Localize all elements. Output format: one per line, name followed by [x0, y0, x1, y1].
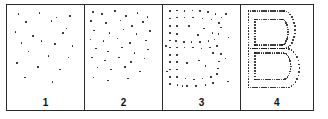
stimulus-dot: [254, 44, 256, 46]
stimulus-dot: [114, 10, 116, 12]
stimulus-dot: [212, 32, 214, 34]
stimulus-dot: [254, 58, 256, 60]
stimulus-dot: [191, 41, 193, 43]
stimulus-dot: [298, 71, 300, 73]
stimulus-dot: [290, 68, 292, 70]
stimulus-dot: [248, 10, 250, 12]
stimulus-dot: [220, 27, 222, 29]
stimulus-dot: [48, 55, 50, 57]
stimulus-dot: [294, 25, 296, 27]
stimulus-dot: [169, 32, 171, 34]
stimulus-dot: [254, 38, 256, 40]
stimulus-dot: [176, 69, 178, 71]
stimulus-dot: [95, 48, 97, 50]
stimulus-dot: [177, 84, 179, 86]
stimulus-dot: [289, 71, 291, 73]
stimulus-dot: [221, 17, 223, 19]
stimulus-dot: [208, 40, 210, 42]
stimulus-dot: [215, 13, 217, 15]
stimulus-dot: [176, 25, 178, 27]
stimulus-dot: [28, 51, 30, 53]
stimulus-dot: [130, 61, 132, 63]
stimulus-dot: [298, 75, 300, 77]
stimulus-dot: [265, 19, 267, 21]
stimulus-dot: [169, 54, 171, 56]
stimulus-dot: [137, 12, 139, 14]
stimulus-dot: [248, 16, 250, 18]
stimulus-dot: [274, 10, 276, 12]
stimulus-dot: [289, 60, 291, 62]
stimulus-dot: [287, 34, 289, 36]
stimulus-dot: [248, 73, 250, 75]
stimulus-dot: [293, 22, 295, 24]
stimulus-dot: [176, 61, 178, 63]
stimulus-dot: [90, 20, 92, 22]
stimulus-dot: [287, 29, 289, 31]
stimulus-dot: [254, 36, 256, 38]
stimulus-dot: [270, 44, 272, 46]
stimulus-dot: [286, 48, 288, 50]
stimulus-dot: [256, 79, 258, 81]
stimulus-dot: [256, 44, 258, 46]
stimulus-dot: [205, 84, 207, 86]
stimulus-dot: [218, 22, 220, 24]
stimulus-dot: [110, 69, 112, 71]
stimulus-dot: [192, 17, 194, 19]
stimulus-dot: [248, 70, 250, 72]
stimulus-dot: [227, 81, 229, 83]
stimulus-dot: [254, 27, 256, 29]
stimulus-dot: [117, 38, 119, 40]
stimulus-dot: [263, 44, 265, 46]
stimulus-dot: [39, 12, 41, 14]
stimulus-dot: [15, 31, 17, 33]
stimulus-dot: [176, 47, 178, 49]
stimulus-dot: [254, 67, 256, 69]
stimulus-dot: [16, 62, 18, 64]
stimulus-dot: [175, 40, 177, 42]
stimulus-dot: [265, 10, 267, 12]
stimulus-dot: [52, 81, 54, 83]
stimulus-dot: [176, 76, 178, 78]
stimulus-dot: [169, 76, 171, 78]
stimulus-dot: [272, 44, 274, 46]
stimulus-dot: [248, 78, 250, 80]
stimulus-dot: [248, 50, 250, 52]
stimulus-panel-3: 3: [163, 5, 241, 110]
stimulus-dot: [289, 73, 291, 75]
stimulus-dot: [203, 28, 205, 30]
stimulus-dot: [286, 78, 288, 80]
stimulus-dot: [101, 13, 103, 15]
stimulus-dot: [218, 61, 220, 63]
stimulus-dot: [281, 44, 283, 46]
stimulus-dot: [284, 78, 286, 80]
stimulus-dot: [169, 83, 171, 85]
stimulus-dot: [183, 41, 185, 43]
stimulus-dot: [97, 67, 99, 69]
stimulus-dot: [288, 75, 290, 77]
stimulus-dot: [254, 21, 256, 23]
stimulus-dot: [62, 32, 64, 34]
stimulus-dot: [274, 44, 276, 46]
stimulus-dot: [248, 30, 250, 32]
stimulus-dot: [256, 87, 258, 89]
stimulus-dot: [169, 18, 171, 20]
stimulus-dot: [18, 13, 20, 15]
stimulus-dot: [290, 66, 292, 68]
stimulus-dot: [144, 58, 146, 60]
stimulus-dot: [142, 21, 144, 23]
stimulus-dot: [286, 87, 288, 89]
stimulus-dot: [184, 17, 186, 19]
stimulus-dot: [25, 21, 27, 23]
stimulus-dot: [68, 57, 70, 59]
stimulus-dot: [220, 53, 222, 55]
stimulus-dot: [254, 61, 256, 63]
stimulus-dot: [254, 87, 256, 89]
stimulus-dot: [276, 79, 278, 81]
stimulus-dot: [107, 51, 109, 53]
stimulus-dot: [279, 44, 281, 46]
stimulus-dot: [176, 54, 178, 56]
stimulus-dot: [104, 60, 106, 62]
stimulus-dot: [184, 47, 186, 49]
stimulus-dot: [296, 56, 298, 58]
stimulus-panel-4: 4: [241, 5, 313, 110]
